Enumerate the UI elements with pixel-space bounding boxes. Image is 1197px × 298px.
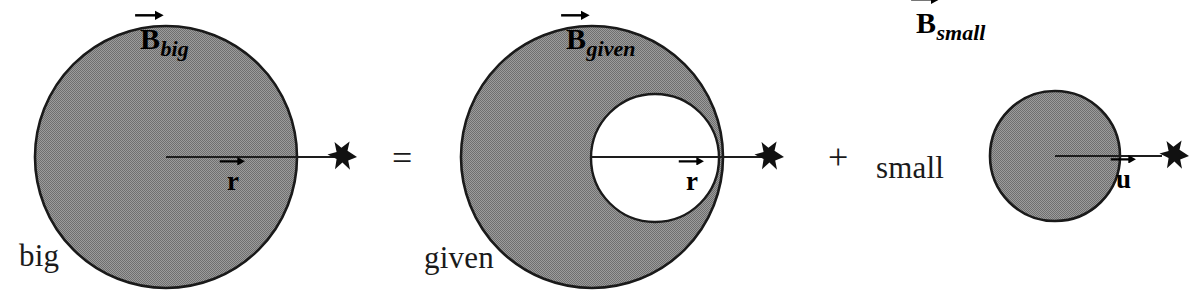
operator-equals: =: [392, 140, 412, 176]
panel-word-label-small: small: [876, 152, 944, 183]
star-field-point-icon: [1160, 140, 1190, 168]
radius-symbol-base: u: [1116, 166, 1131, 193]
star-field-point-icon: [328, 141, 358, 169]
field-symbol-base: B: [140, 24, 160, 54]
radius-symbol-base: r: [227, 168, 239, 195]
radius-label-given: r: [686, 168, 698, 195]
operator-plus: +: [828, 139, 848, 175]
radius-symbol-base: r: [686, 168, 698, 195]
field-label-subscript: given: [587, 38, 636, 60]
field-symbol-base: B: [916, 8, 936, 38]
field-label-given: Bgiven: [566, 24, 635, 54]
field-label-small: Bsmall: [916, 8, 985, 38]
panel-word-label-big: big: [19, 240, 59, 271]
field-label-big: Bbig: [140, 24, 189, 54]
field-label-subscript: big: [161, 38, 189, 60]
radius-label-small: u: [1116, 166, 1131, 193]
field-label-subscript: small: [937, 22, 986, 44]
diagram-canvas: Bbig r big = Bgiven r given + Bsmall sma…: [0, 0, 1197, 298]
panel-word-label-given: given: [424, 242, 494, 273]
radius-label-big: r: [227, 168, 239, 195]
field-symbol-base: B: [566, 24, 586, 54]
star-field-point-icon: [755, 141, 785, 169]
